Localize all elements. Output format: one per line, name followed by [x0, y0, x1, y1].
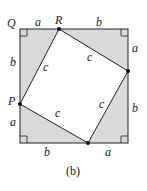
side-top-right: b — [96, 15, 102, 29]
side-right-bottom: b — [132, 101, 138, 115]
point-bottom — [86, 141, 90, 145]
hyp-right: c — [99, 97, 105, 111]
side-left-bottom: a — [10, 115, 16, 129]
point-r — [57, 27, 61, 31]
hyp-top: c — [87, 50, 93, 64]
side-bottom-left: b — [44, 145, 50, 159]
side-bottom-right: a — [105, 145, 111, 159]
point-right — [126, 69, 130, 73]
side-top-left: a — [35, 15, 41, 29]
pythagorean-square-diagram: Q R P a b a b b a b a c c c c (b) — [0, 0, 147, 191]
point-p — [18, 102, 22, 106]
side-left-top: b — [10, 55, 16, 69]
hyp-left: c — [43, 60, 49, 74]
side-right-top: a — [132, 41, 138, 55]
label-r: R — [54, 13, 63, 27]
label-p: P — [7, 94, 16, 108]
hyp-bottom: c — [55, 106, 61, 120]
figure-caption: (b) — [66, 164, 80, 178]
label-q: Q — [7, 16, 16, 30]
